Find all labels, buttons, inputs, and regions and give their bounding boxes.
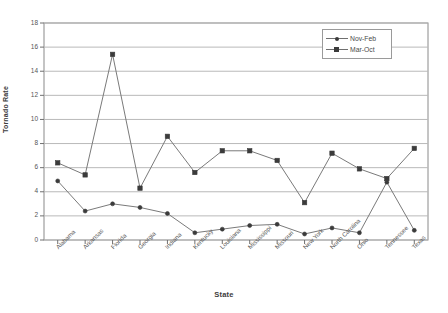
data-point[interactable]: [357, 167, 361, 171]
data-point[interactable]: [110, 52, 114, 56]
x-axis-title: State: [0, 290, 448, 299]
data-point[interactable]: [275, 158, 279, 162]
legend-item-nov-feb[interactable]: Nov-Feb: [326, 33, 387, 44]
data-point[interactable]: [83, 209, 87, 213]
data-point[interactable]: [412, 228, 416, 232]
legend-marker-diamond-icon: [326, 33, 348, 44]
data-point[interactable]: [56, 161, 60, 165]
legend-item-mar-oct[interactable]: Mar-Oct: [326, 44, 387, 55]
data-point[interactable]: [248, 224, 252, 228]
data-point[interactable]: [275, 222, 279, 226]
data-point[interactable]: [56, 179, 60, 183]
data-point[interactable]: [138, 186, 142, 190]
legend-marker-square-icon: [326, 44, 348, 55]
chart-legend: Nov-Feb Mar-Oct: [322, 29, 392, 59]
legend-label-nov-feb: Nov-Feb: [348, 35, 376, 42]
tornado-rate-line-chart: Tornado Rate 024681012141618 AlabamaArka…: [0, 0, 448, 313]
data-point[interactable]: [302, 200, 306, 204]
data-point[interactable]: [220, 227, 224, 231]
data-point[interactable]: [220, 149, 224, 153]
data-point[interactable]: [303, 232, 307, 236]
data-point[interactable]: [385, 176, 389, 180]
legend-label-mar-oct: Mar-Oct: [348, 46, 375, 53]
data-point[interactable]: [165, 211, 169, 215]
data-point[interactable]: [357, 231, 361, 235]
data-point[interactable]: [111, 202, 115, 206]
data-point[interactable]: [165, 134, 169, 138]
data-point[interactable]: [412, 146, 416, 150]
data-point[interactable]: [248, 149, 252, 153]
data-point[interactable]: [193, 231, 197, 235]
data-point[interactable]: [193, 170, 197, 174]
data-point[interactable]: [330, 151, 334, 155]
data-point[interactable]: [138, 205, 142, 209]
data-point[interactable]: [330, 226, 334, 230]
data-point[interactable]: [83, 173, 87, 177]
